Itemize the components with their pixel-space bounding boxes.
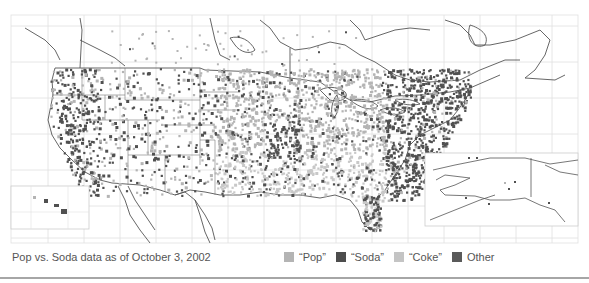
pop-swatch-icon [284,252,294,262]
legend-item-pop: “Pop” [284,251,326,263]
legend-label-pop: “Pop” [299,251,326,263]
bottom-divider [0,277,589,279]
hawaii-inset [11,186,89,229]
legend-label-coke: “Coke” [409,251,442,263]
map-caption: Pop vs. Soda data as of October 3, 2002 [12,251,211,263]
pop-soda-map [0,0,589,246]
survey-response-dots [50,30,472,232]
legend-label-other: Other [467,251,495,263]
soda-swatch-icon [336,252,346,262]
other-swatch-icon [452,252,462,262]
legend-item-coke: “Coke” [394,251,442,263]
coke-swatch-icon [394,252,404,262]
legend-label-soda: “Soda” [351,251,384,263]
legend-item-soda: “Soda” [336,251,384,263]
alaska-inset [425,153,578,226]
legend-item-other: Other [452,251,495,263]
legend: “Pop” “Soda” “Coke” Other [284,251,504,263]
